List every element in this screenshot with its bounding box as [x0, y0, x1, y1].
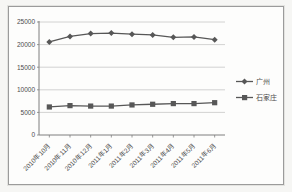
square-marker-icon [150, 102, 155, 107]
y-axis-tick-label: 10000 [17, 86, 35, 93]
legend-item: 石家庄 [236, 93, 277, 102]
y-axis-tick-label: 15000 [17, 64, 35, 71]
y-axis-tick-label: 20000 [17, 41, 35, 48]
square-marker-icon [236, 93, 253, 102]
chart-frame: 05000100001500020000250002010年10月2010年11… [8, 6, 284, 185]
diamond-marker-icon [212, 37, 218, 43]
diamond-marker-icon [46, 39, 52, 45]
square-marker-icon [88, 103, 93, 108]
legend-item: 广州 [236, 77, 277, 86]
y-axis-tick-label: 5000 [21, 109, 36, 116]
square-marker-icon [47, 104, 52, 109]
square-marker-icon [171, 101, 176, 106]
square-marker-icon [109, 103, 114, 108]
diamond-marker-icon [150, 32, 156, 38]
legend-label: 广州 [256, 78, 270, 85]
chart-legend: 广州石家庄 [236, 77, 277, 102]
square-marker-icon [212, 100, 217, 105]
y-axis-tick-label: 0 [31, 131, 35, 138]
diamond-marker-icon [191, 34, 197, 40]
diamond-marker-icon [108, 30, 114, 36]
diamond-marker-icon [129, 31, 135, 37]
y-axis-tick-label: 25000 [17, 18, 35, 25]
diamond-marker-icon [67, 33, 73, 39]
diamond-marker-icon [88, 31, 94, 37]
legend-label: 石家庄 [256, 94, 277, 101]
square-marker-icon [191, 101, 196, 106]
diamond-marker-icon [236, 77, 253, 86]
square-marker-icon [129, 102, 134, 107]
square-marker-icon [67, 103, 72, 108]
diamond-marker-icon [170, 34, 176, 40]
